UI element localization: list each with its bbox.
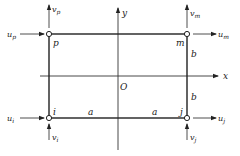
dimension-a-left: a [88, 107, 93, 117]
dimension-b-top: b [191, 49, 197, 59]
v-i-label: vi [52, 133, 59, 143]
u-m-label: um [218, 30, 229, 40]
u-p-label: up [7, 30, 16, 41]
node-label-p: p [53, 38, 59, 48]
dimension-b-bottom: b [191, 92, 197, 102]
u-i-label: ui [7, 114, 14, 124]
x-axis-label: x [223, 71, 228, 81]
v-p-label: vp [52, 5, 61, 16]
node-i [46, 115, 51, 120]
node-label-m: m [176, 38, 185, 48]
node-p [46, 31, 51, 36]
element-diagram: x y O p m i j a a b b up vp um vm ui vi … [0, 0, 240, 156]
node-m [184, 31, 189, 36]
v-j-label: vj [190, 133, 197, 144]
origin-label: O [120, 82, 128, 92]
node-label-i: i [53, 107, 56, 117]
v-m-label: vm [190, 9, 201, 19]
node-label-j: j [178, 107, 183, 117]
node-j [184, 115, 189, 120]
dimension-a-right: a [152, 107, 157, 117]
y-axis-label: y [121, 8, 128, 18]
u-j-label: uj [218, 114, 225, 125]
